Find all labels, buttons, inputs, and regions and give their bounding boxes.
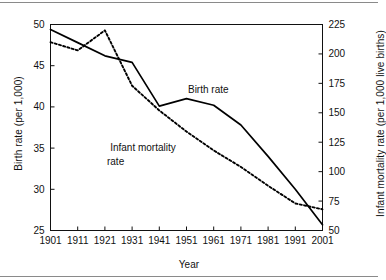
x-axis-tick-label: 1931 xyxy=(121,235,144,246)
x-axis-tick-label: 1981 xyxy=(257,235,280,246)
series-line-infant-mortality xyxy=(51,30,323,209)
x-axis-tick-label: 1911 xyxy=(67,235,89,246)
x-axis-tick-label: 1961 xyxy=(203,235,226,246)
y-axis-left-tick-label: 50 xyxy=(33,19,45,30)
y-axis-left-tick-label: 45 xyxy=(33,60,45,71)
plot-frame xyxy=(51,25,323,231)
x-axis-title: Year xyxy=(0,259,378,270)
x-axis-tick-label: 1971 xyxy=(230,235,253,246)
series-annotation-birth-rate: Birth rate xyxy=(188,84,229,95)
y-axis-right-tick-label: 175 xyxy=(329,78,346,89)
x-axis-tick-label: 1951 xyxy=(175,235,198,246)
x-axis-tick-label: 2001 xyxy=(311,235,334,246)
y-axis-right-tick-label: 100 xyxy=(329,166,346,177)
series-annotation-infant-mortality-line2: rate xyxy=(107,156,125,167)
y-axis-right-tick-label: 125 xyxy=(329,137,346,148)
y-axis-right-tick-label: 225 xyxy=(329,19,346,30)
x-axis-tick-label: 1941 xyxy=(148,235,171,246)
x-axis-tick-label: 1921 xyxy=(94,235,117,246)
y-axis-left-ticks: 253035404550 xyxy=(33,19,54,236)
x-axis-ticks: 1901191119211931194119511961197119811991… xyxy=(39,227,334,246)
y-axis-right-title: Infant mortality rate (per 1,000 live bi… xyxy=(375,9,386,239)
series-annotation-infant-mortality-line1: Infant mortality xyxy=(110,142,176,153)
x-axis-tick-label: 1901 xyxy=(39,235,62,246)
x-axis-tick-label: 1991 xyxy=(284,235,307,246)
y-axis-right-tick-label: 200 xyxy=(329,48,346,59)
y-axis-left-tick-label: 40 xyxy=(33,101,45,112)
y-axis-left-tick-label: 35 xyxy=(33,143,45,154)
y-axis-left-tick-label: 30 xyxy=(33,184,45,195)
y-axis-right-tick-label: 75 xyxy=(329,196,341,207)
y-axis-left-title: Birth rate (per 1,000) xyxy=(13,44,24,204)
y-axis-right-tick-label: 150 xyxy=(329,107,346,118)
